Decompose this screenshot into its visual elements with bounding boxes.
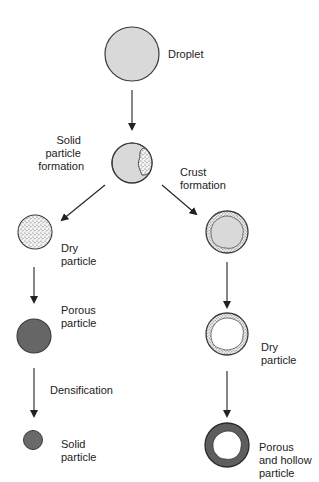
dry-particle-right-void [211, 318, 243, 350]
dry-particle-left-node: Dry particle [18, 215, 96, 267]
porous-particle-node: Porous particle [17, 304, 99, 353]
dry-particle-right-node: Dry particle [206, 313, 296, 366]
droplet-node: Droplet [105, 27, 203, 81]
particle-formation-diagram: Droplet Solid particle formation Crust f… [0, 0, 319, 482]
crust-particle-node [206, 211, 248, 253]
crust-core-shape [211, 216, 243, 248]
solid-formation-label: Solid particle formation [38, 134, 84, 172]
solid-particle-shape [24, 431, 43, 450]
crust-formation-label: Crust formation [180, 166, 226, 191]
dry-particle-left-shape [18, 215, 52, 249]
hollow-particle-label: Porous and hollow particle [259, 441, 315, 479]
hollow-particle-node: Porous and hollow particle [205, 423, 315, 479]
solid-particle-node: Solid particle [24, 431, 97, 464]
arrow-initial-to-dry-left [62, 185, 105, 220]
porous-particle-shape [17, 319, 51, 353]
porous-particle-label: Porous particle [61, 304, 99, 329]
droplet-label: Droplet [168, 48, 203, 60]
dry-particle-left-label: Dry particle [61, 242, 96, 267]
droplet-shape [105, 27, 159, 81]
initial-particle-node [112, 143, 153, 183]
hollow-particle-void [213, 431, 241, 459]
solid-particle-label: Solid particle [61, 438, 96, 463]
dry-particle-right-label: Dry particle [261, 341, 296, 366]
densification-label: Densification [50, 384, 113, 396]
